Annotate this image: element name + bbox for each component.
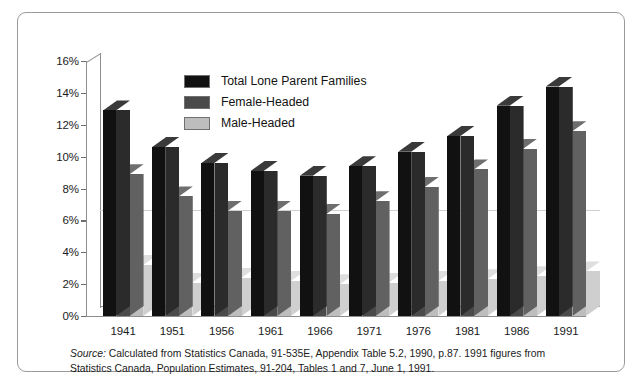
bar-side-face [130,174,144,316]
y-tick-mark [81,93,86,94]
x-tick-label: 1976 [406,325,431,337]
bar [349,166,362,316]
legend-item[interactable]: Total Lone Parent Families [184,72,367,90]
bar-side-face [523,149,537,316]
x-tick-label: 1956 [209,325,234,337]
x-tick-label: 1951 [160,325,185,337]
bar-front-face [546,87,559,317]
bar-side-face [586,271,600,316]
y-tick-mark [81,189,86,190]
y-tick-label: 16% [56,55,79,67]
bar-side-face [376,201,390,316]
bar-side-face [228,211,242,316]
y-axis-line-back [100,53,101,308]
bar [152,147,165,316]
bar-top-face [201,153,228,163]
bar-side-face [264,171,278,316]
legend-swatch [184,75,210,88]
y-tick-mark [81,252,86,253]
bar-front-face [300,176,313,316]
bar-side-face [313,176,327,316]
bar-side-face [362,166,376,316]
bar-side-face [425,187,439,316]
bar-top-face [300,166,327,176]
bar-front-face [398,152,411,316]
bar-side-face [474,169,488,316]
bar-side-face [572,131,586,316]
bar-top-face [349,156,376,166]
bar-top-face [497,96,524,106]
bar-top-face [447,126,474,136]
legend-swatch [184,96,210,109]
y-axis-depth-connector [86,53,102,63]
bar-front-face [103,110,116,316]
bar-group [398,315,452,316]
chart-frame: 0%2%4%6%8%10%12%14%16% 19411951195619611… [17,12,625,372]
bar [251,171,264,316]
bar-group [447,315,501,316]
bar-top-face [103,100,130,110]
source-lead: Source: [70,348,106,359]
bar-top-face [152,137,179,147]
bar-group [546,315,600,316]
bar-side-face [510,106,524,316]
bar-group [497,315,551,316]
figure: 0%2%4%6%8%10%12%14%16% 19411951195619611… [0,0,643,386]
bar-side-face [116,110,130,316]
bar-top-face [398,142,425,152]
x-tick-label: 1966 [307,325,332,337]
bar [447,136,460,316]
legend: Total Lone Parent FamiliesFemale-HeadedM… [184,72,367,135]
x-tick-label: 1961 [258,325,283,337]
bar-side-face [326,214,340,316]
y-tick-label: 8% [63,183,79,195]
bar-front-face [152,147,165,316]
y-tick-mark [81,220,86,221]
y-tick-mark [81,316,86,317]
bar [398,152,411,316]
y-tick-label: 0% [63,310,79,322]
bar-top-face [251,161,278,171]
legend-item[interactable]: Female-Headed [184,93,367,111]
bar-group [201,315,255,316]
bar [201,163,214,316]
bar-front-face [497,106,510,316]
bar [497,106,510,316]
y-tick-mark [81,284,86,285]
legend-item[interactable]: Male-Headed [184,114,367,132]
bar [300,176,313,316]
y-tick-label: 12% [56,119,79,131]
y-axis-line [86,61,87,316]
legend-label: Male-Headed [221,116,295,130]
y-tick-label: 4% [63,246,79,258]
y-tick-mark [81,125,86,126]
legend-swatch [184,117,210,130]
bar-group [300,315,354,316]
bar-front-face [251,171,264,316]
x-tick-label: 1981 [455,325,480,337]
x-tick-label: 1941 [111,325,136,337]
bar-group [152,315,206,316]
bar-front-face [349,166,362,316]
y-tick-label: 6% [63,214,79,226]
legend-label: Female-Headed [221,95,309,109]
x-axis-line [86,316,586,317]
y-tick-mark [81,157,86,158]
bar-group [349,315,403,316]
x-tick-label: 1991 [553,325,578,337]
bar-side-face [559,87,573,317]
bar-side-face [214,163,228,316]
bar-front-face [447,136,460,316]
y-tick-mark [81,61,86,62]
bar-top-face [546,77,573,87]
y-tick-label: 10% [56,151,79,163]
bar-side-face [179,196,193,316]
bar-side-face [411,152,425,316]
bar-group [251,315,305,316]
source-line-1: Calculated from Statistics Canada, 91-53… [109,348,545,359]
y-tick-label: 2% [63,278,79,290]
x-tick-label: 1971 [357,325,382,337]
bar [103,110,116,316]
source-note: Source: Calculated from Statistics Canad… [70,347,630,376]
source-line-2: Statistics Canada, Population Estimates,… [70,363,434,374]
